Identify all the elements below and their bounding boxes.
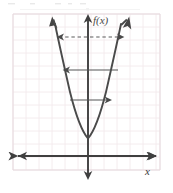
parabola-figure: f(x) x [0, 0, 173, 193]
graph-canvas: f(x) x [0, 0, 173, 193]
annotation-top-interval [57, 33, 125, 40]
x-axis-label: x [144, 165, 150, 177]
interval-annotations [57, 33, 125, 103]
function-label: f(x) [93, 14, 109, 27]
